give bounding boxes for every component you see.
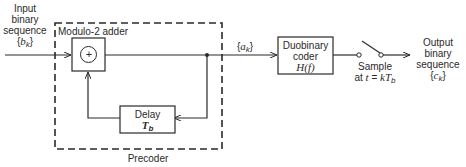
sampler-label: Sample at t = kTb [345,61,405,86]
sampler-switch-arm[interactable] [362,41,380,53]
adder-label: Modulo-2 adder [58,26,128,37]
duobinary-label: Duobinary coder H(f) [278,40,333,73]
ak-label: {ak} [230,41,260,55]
feedback-to-delay [174,55,207,118]
input-line1: Input [0,3,50,14]
delay-label: Delay Tb [120,109,175,134]
precoder-label: Precoder [118,153,178,164]
input-label: Input binary sequence {bk} [0,3,50,50]
delay-to-adder [88,72,120,118]
plus-icon: + [83,49,95,60]
input-line2: binary [0,14,50,25]
switch-contact-left [357,53,361,57]
switch-contact-right [379,53,383,57]
output-label: Output binary sequence {ck} [410,37,466,84]
input-symbol: {bk} [0,36,50,50]
